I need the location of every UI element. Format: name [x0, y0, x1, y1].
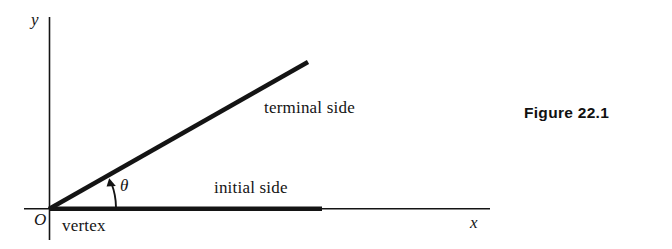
origin-label: O	[34, 211, 46, 228]
terminal-side-label: terminal side	[264, 99, 355, 116]
figure-caption: Figure 22.1	[524, 104, 609, 122]
angle-theta-label: θ	[120, 177, 128, 194]
vertex-label: vertex	[62, 217, 106, 234]
angle-arc	[112, 184, 117, 208]
initial-side-label: initial side	[214, 179, 288, 196]
x-axis-label: x	[470, 214, 478, 231]
angle-arrowhead-icon	[107, 178, 116, 186]
y-axis-label: y	[31, 11, 39, 28]
angle-standard-position-diagram	[0, 0, 672, 249]
figure-canvas: y x O θ vertex initial side terminal sid…	[0, 0, 672, 249]
